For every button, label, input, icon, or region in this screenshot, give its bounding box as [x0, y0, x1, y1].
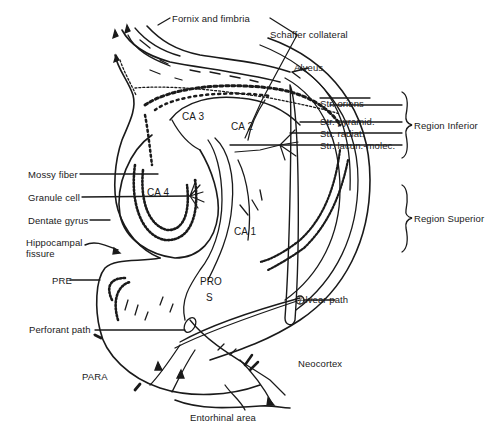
fornix-fibers: [122, 26, 290, 82]
label-str-radiat: Str. radiat.: [320, 128, 365, 139]
label-str-pyramid: Str. pyramid.: [320, 116, 375, 127]
label-ca3: CA 3: [182, 111, 204, 122]
brace-region-inferior: [402, 92, 412, 158]
label-perforant-path: Perforant path: [29, 324, 91, 335]
label-neocortex: Neocortex: [298, 358, 342, 369]
label-pre: PRE: [52, 275, 72, 286]
label-dentate-gyrus: Dentate gyrus: [28, 215, 88, 226]
label-mossy-fiber: Mossy fiber: [28, 169, 78, 180]
brace-region-superior: [402, 185, 412, 252]
label-granule-cell: Granule cell: [28, 192, 80, 203]
label-entorhinal-area: Entorhinal area: [190, 412, 256, 423]
outer-contour-left: [115, 55, 160, 258]
label-fornix-and-fimbria: Fornix and fimbria: [172, 13, 250, 24]
label-hippocampal-fissure: Hippocampal: [26, 237, 83, 248]
label-ca1: CA 1: [234, 226, 256, 237]
label-str-lacun-molec: Str. lacun.-molec.: [320, 140, 395, 151]
label-schaffer-collateral: Schaffer collateral: [270, 29, 348, 40]
label-hippocampal-fissure-line2: fissure: [26, 248, 55, 259]
label-ca2: CA 2: [231, 121, 253, 132]
label-s: S: [206, 292, 213, 303]
label-pro: PRO: [200, 276, 222, 287]
label-alvear-path: Alvear path: [299, 294, 348, 305]
label-region-inferior: Region Inferior: [414, 120, 478, 131]
label-region-superior: Region Superior: [414, 213, 484, 224]
label-alveus: Alveus: [294, 62, 323, 73]
label-ca4: CA 4: [147, 187, 169, 198]
label-para: PARA: [82, 371, 108, 382]
label-str-oriens: Str. oriens: [320, 98, 364, 109]
